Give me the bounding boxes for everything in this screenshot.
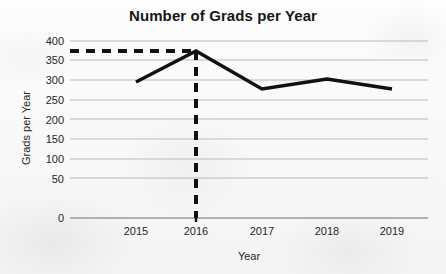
gridlines-group xyxy=(70,41,428,178)
data-line-grads-per-year xyxy=(136,51,392,89)
line-chart: Number of Grads per Year 400 350 300 250… xyxy=(0,0,446,274)
plot-area xyxy=(0,0,446,274)
